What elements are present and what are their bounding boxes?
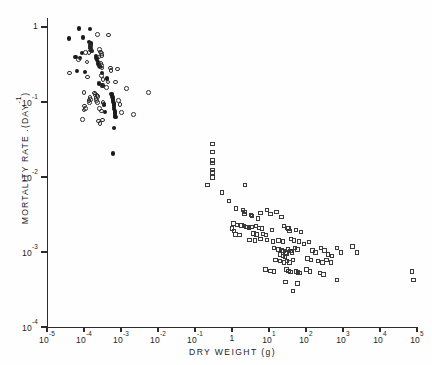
data-point-filled-circle <box>105 76 109 80</box>
data-point-filled-circle <box>96 62 100 66</box>
data-point-open-square <box>227 199 231 203</box>
data-point-open-circle <box>101 100 106 105</box>
data-point-filled-circle <box>98 64 102 68</box>
data-point-open-square <box>287 229 291 233</box>
data-point-open-square <box>330 254 334 258</box>
x-tick-label: 10-2 <box>140 334 176 344</box>
scatter-plot-area <box>0 0 432 365</box>
data-point-filled-circle <box>112 107 116 111</box>
data-point-open-circle <box>100 83 105 88</box>
data-point-open-square <box>310 248 314 252</box>
data-point-open-square <box>231 221 235 225</box>
data-point-open-square <box>281 239 285 243</box>
data-point-filled-circle <box>80 51 84 55</box>
data-point-filled-circle <box>77 26 81 30</box>
data-point-open-square <box>237 233 241 237</box>
data-point-open-circle <box>96 119 101 124</box>
data-point-filled-circle <box>113 114 117 118</box>
data-point-open-square <box>220 190 224 194</box>
data-point-open-square <box>285 226 289 230</box>
data-point-open-square <box>273 258 277 262</box>
data-point-open-square <box>235 223 239 227</box>
data-point-open-square <box>210 175 214 179</box>
y-tick-mark <box>41 176 48 177</box>
data-point-open-square <box>250 214 254 218</box>
data-point-open-square <box>268 212 272 216</box>
data-point-open-circle <box>99 73 104 78</box>
data-point-filled-circle <box>89 47 93 51</box>
data-point-open-square <box>326 252 330 256</box>
data-point-filled-circle <box>88 27 92 31</box>
data-point-open-square <box>253 238 257 242</box>
data-point-open-square <box>283 255 287 259</box>
data-point-open-square <box>286 269 290 273</box>
data-point-open-circle <box>104 85 109 90</box>
y-axis-title: MORTALITY RATE .(DAY-1) <box>18 78 30 238</box>
data-point-open-circle <box>87 50 92 55</box>
data-point-open-square <box>276 247 280 251</box>
data-point-open-square <box>410 269 414 273</box>
data-point-open-square <box>335 278 339 282</box>
data-point-open-circle <box>98 50 103 55</box>
data-point-open-circle <box>100 118 105 123</box>
data-point-open-square <box>244 225 248 229</box>
data-point-filled-circle <box>78 56 82 60</box>
y-tick-label: 10-3 <box>0 247 38 257</box>
x-tick-mark <box>46 327 47 332</box>
data-point-open-square <box>286 226 290 230</box>
data-point-open-square <box>298 271 302 275</box>
data-point-filled-circle <box>109 92 113 96</box>
data-point-open-circle <box>108 66 113 71</box>
data-point-open-circle <box>83 50 88 55</box>
data-point-filled-circle <box>110 93 114 97</box>
data-point-open-circle <box>119 110 124 115</box>
data-point-open-square <box>256 216 260 220</box>
data-point-open-square <box>278 259 282 263</box>
y-axis-line <box>47 18 48 328</box>
data-point-open-circle <box>124 86 129 91</box>
data-point-open-square <box>294 228 298 232</box>
data-point-open-circle <box>113 80 118 85</box>
data-point-open-circle <box>118 102 123 107</box>
y-tick-label: 10-4 <box>0 322 38 332</box>
data-point-open-square <box>276 238 280 242</box>
data-point-open-square <box>258 237 262 241</box>
data-point-open-square <box>264 233 268 237</box>
data-point-filled-circle <box>67 36 71 40</box>
data-point-open-square <box>324 258 328 262</box>
data-point-open-circle <box>88 43 93 48</box>
data-point-open-square <box>294 269 298 273</box>
x-tick-label: 10-3 <box>103 334 139 344</box>
data-point-open-square <box>272 246 276 250</box>
data-point-filled-circle <box>111 100 115 104</box>
data-point-open-circle <box>92 91 97 96</box>
data-point-open-square <box>329 260 333 264</box>
data-point-open-circle <box>97 47 102 52</box>
x-tick-label: 10-5 <box>29 334 65 344</box>
data-point-open-square <box>265 208 269 212</box>
data-point-open-square <box>270 228 274 232</box>
data-point-open-square <box>283 280 287 284</box>
data-point-open-circle <box>88 45 93 50</box>
data-point-open-square <box>296 270 300 274</box>
data-point-open-circle <box>100 53 105 58</box>
data-point-filled-circle <box>89 43 93 47</box>
data-point-open-square <box>210 142 214 146</box>
data-point-filled-circle <box>112 105 116 109</box>
data-point-open-circle <box>100 66 105 71</box>
data-point-open-square <box>258 211 262 215</box>
data-point-open-square <box>316 259 320 263</box>
x-tick-mark <box>416 327 417 332</box>
y-tick-label: 1 <box>0 22 38 31</box>
data-point-open-circle <box>85 60 90 65</box>
data-point-open-square <box>281 254 285 258</box>
x-tick-label: 101 <box>251 334 287 344</box>
data-point-open-square <box>268 269 272 273</box>
x-tick-label: 10-4 <box>66 334 102 344</box>
data-point-open-square <box>350 244 354 248</box>
data-point-filled-circle <box>113 110 117 114</box>
data-point-filled-circle <box>100 83 104 87</box>
data-point-open-square <box>291 289 295 293</box>
y-tick-mark <box>41 101 48 102</box>
data-point-open-circle <box>89 48 94 53</box>
